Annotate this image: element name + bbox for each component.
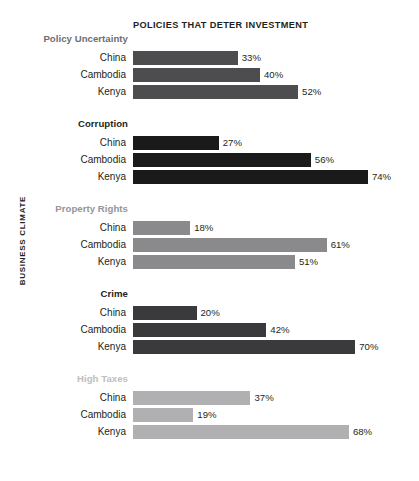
bar-value-label: 70% xyxy=(359,340,378,354)
bar xyxy=(133,153,311,167)
bar-row: Cambodia61% xyxy=(0,238,419,252)
bar-value-label: 40% xyxy=(264,68,283,82)
bar-group: Policy UncertaintyChina33%Cambodia40%Ken… xyxy=(0,33,419,102)
bar-row: China33% xyxy=(0,51,419,65)
bar xyxy=(133,425,349,439)
plot-area: Policy UncertaintyChina33%Cambodia40%Ken… xyxy=(0,0,419,481)
bar xyxy=(133,255,295,269)
bar-value-label: 56% xyxy=(315,153,334,167)
bar-row: Cambodia56% xyxy=(0,153,419,167)
bar xyxy=(133,136,219,150)
bar-value-label: 42% xyxy=(270,323,289,337)
bar xyxy=(133,221,190,235)
bar-value-label: 33% xyxy=(242,51,261,65)
bar-category-label: Kenya xyxy=(0,425,126,439)
bar-category-label: China xyxy=(0,136,126,150)
bar-group: CrimeChina20%Cambodia42%Kenya70% xyxy=(0,288,419,357)
bar-category-label: Cambodia xyxy=(0,408,126,422)
bar xyxy=(133,51,238,65)
bar-category-label: Kenya xyxy=(0,255,126,269)
bar-row: Kenya68% xyxy=(0,425,419,439)
bar-category-label: Kenya xyxy=(0,340,126,354)
bar-value-label: 19% xyxy=(197,408,216,422)
bar-category-label: Cambodia xyxy=(0,68,126,82)
bar xyxy=(133,68,260,82)
bar-category-label: Kenya xyxy=(0,170,126,184)
bar-value-label: 27% xyxy=(223,136,242,150)
bar-row: Kenya52% xyxy=(0,85,419,99)
bar xyxy=(133,323,266,337)
bar-group-label: Crime xyxy=(0,288,128,299)
bar-group-label: Policy Uncertainty xyxy=(0,33,128,44)
bar-group-label: High Taxes xyxy=(0,373,128,384)
bar-group: High TaxesChina37%Cambodia19%Kenya68% xyxy=(0,373,419,442)
bar-category-label: Cambodia xyxy=(0,323,126,337)
bar-value-label: 51% xyxy=(299,255,318,269)
bar-row: Cambodia40% xyxy=(0,68,419,82)
bar-group: CorruptionChina27%Cambodia56%Kenya74% xyxy=(0,118,419,187)
bar-category-label: Cambodia xyxy=(0,238,126,252)
bar-value-label: 68% xyxy=(353,425,372,439)
bar xyxy=(133,340,355,354)
bar-value-label: 61% xyxy=(331,238,350,252)
bar xyxy=(133,391,250,405)
bar xyxy=(133,170,368,184)
bar-group-label: Property Rights xyxy=(0,203,128,214)
bar-category-label: Cambodia xyxy=(0,153,126,167)
bar-row: Kenya74% xyxy=(0,170,419,184)
bar-row: China37% xyxy=(0,391,419,405)
bar xyxy=(133,238,327,252)
bar-chart: POLICIES THAT DETER INVESTMENT BUSINESS … xyxy=(0,0,419,481)
bar-group-label: Corruption xyxy=(0,118,128,129)
bar-row: Cambodia42% xyxy=(0,323,419,337)
bar-row: China18% xyxy=(0,221,419,235)
bar-value-label: 74% xyxy=(372,170,391,184)
bar-category-label: China xyxy=(0,221,126,235)
bar-row: Kenya51% xyxy=(0,255,419,269)
bar-row: China27% xyxy=(0,136,419,150)
bar-value-label: 52% xyxy=(302,85,321,99)
bar-category-label: China xyxy=(0,51,126,65)
bar xyxy=(133,408,193,422)
bar-value-label: 18% xyxy=(194,221,213,235)
bar-row: China20% xyxy=(0,306,419,320)
bar-row: Kenya70% xyxy=(0,340,419,354)
bar-value-label: 37% xyxy=(254,391,273,405)
bar xyxy=(133,306,197,320)
bar-value-label: 20% xyxy=(201,306,220,320)
bar-category-label: China xyxy=(0,306,126,320)
bar-category-label: Kenya xyxy=(0,85,126,99)
bar-category-label: China xyxy=(0,391,126,405)
bar-row: Cambodia19% xyxy=(0,408,419,422)
bar xyxy=(133,85,298,99)
bar-group: Property RightsChina18%Cambodia61%Kenya5… xyxy=(0,203,419,272)
